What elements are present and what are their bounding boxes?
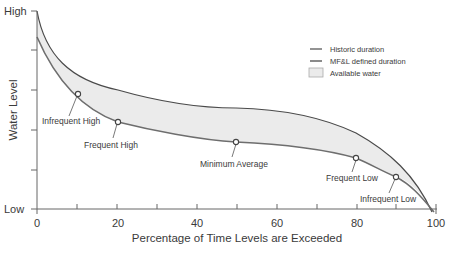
x-tick-label-20: 20 [112,217,124,229]
frequent-high-marker [115,119,120,124]
legend-available-water-label: Available water [330,69,381,78]
y-ticks [31,11,37,209]
minimum-average-marker [233,139,238,144]
legend-mfl-label: MF&L defined duration [330,57,406,66]
minimum-average-label: Minimum Average [200,159,268,169]
x-axis-title: Percentage of Time Levels are Exceeded [132,232,342,244]
infrequent-high-marker [75,91,80,96]
x-tick-label-40: 40 [191,217,203,229]
y-label-high: High [4,5,27,17]
y-label-low: Low [4,203,24,215]
legend: Historic duration MF&L defined duration … [309,45,406,78]
x-tick-label-100: 100 [427,217,445,229]
frequent-low-marker [353,155,358,160]
x-tick-label-60: 60 [271,217,283,229]
x-tick-label-0: 0 [34,217,40,229]
frequent-low-label: Frequent Low [326,173,379,183]
infrequent-high-label: Infrequent High [42,116,100,126]
duration-chart: High Low 0 20 40 60 80 100 Percentage of… [0,0,449,255]
legend-historic-label: Historic duration [330,45,384,54]
legend-available-water-swatch [309,68,323,77]
infrequent-low-label: Infrequent Low [360,194,417,204]
x-tick-label-80: 80 [351,217,363,229]
infrequent-low-marker [393,174,398,179]
y-axis-title: Water Level [7,80,19,141]
frequent-high-label: Frequent High [84,140,138,150]
